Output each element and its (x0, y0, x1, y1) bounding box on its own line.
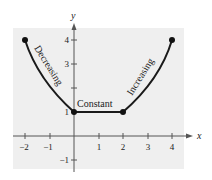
y-tick-label: 4 (65, 35, 70, 45)
constant-label: Constant (77, 98, 113, 109)
endpoint-dot (169, 37, 175, 43)
y-tick-label: 1 (65, 107, 70, 117)
endpoint-dot (120, 109, 126, 115)
x-tick-label: 2 (121, 142, 126, 152)
y-tick-label: −1 (59, 155, 69, 165)
y-axis-label: y (70, 10, 76, 21)
endpoint-dot (22, 37, 28, 43)
chart: x y −2 −1 1 2 3 4 −1 1 3 4 Decreasing Co… (0, 0, 212, 180)
x-tick-label: 1 (97, 142, 102, 152)
x-tick-label: 4 (170, 142, 175, 152)
x-tick-label: −2 (19, 142, 29, 152)
x-tick-label: −1 (43, 142, 53, 152)
y-tick-label: 3 (65, 59, 70, 69)
x-tick-label: 3 (146, 142, 151, 152)
x-axis-label: x (196, 130, 202, 141)
endpoint-dot (71, 109, 77, 115)
